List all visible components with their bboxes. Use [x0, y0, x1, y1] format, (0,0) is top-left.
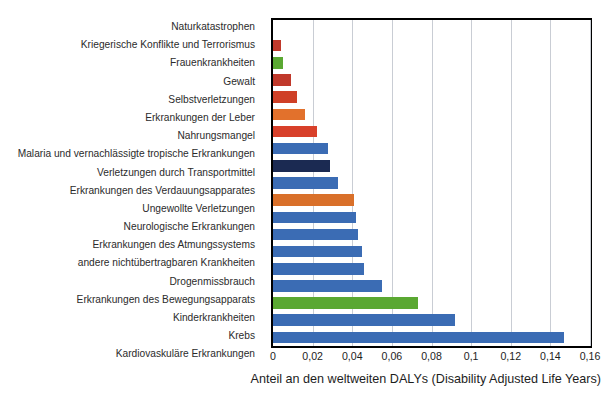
x-tick-label: 0,04	[342, 350, 363, 362]
x-tick-label: 0,12	[500, 350, 521, 362]
plot-area	[271, 18, 592, 348]
bar	[273, 57, 283, 69]
category-label: Kinderkrankheiten	[0, 309, 262, 327]
bar-row	[273, 37, 590, 54]
category-label: Erkrankungen des Bewegungsapparats	[0, 291, 262, 309]
category-label: Frauenkrankheiten	[0, 54, 262, 72]
bar-row	[273, 260, 590, 277]
category-label: Drogenmissbrauch	[0, 273, 262, 291]
category-label: Naturkatastrophen	[0, 18, 262, 36]
bar-row	[273, 277, 590, 294]
x-tick-label: 0,06	[382, 350, 403, 362]
bar	[273, 280, 382, 292]
bar	[273, 177, 338, 189]
bar-row	[273, 106, 590, 123]
bar	[273, 91, 297, 103]
bar-row	[273, 71, 590, 88]
chart-figure: NaturkatastrophenKriegerische Konflikte …	[0, 0, 609, 398]
bar-row	[273, 174, 590, 191]
category-label: Gewalt	[0, 73, 262, 91]
x-axis-title: Anteil an den weltweiten DALYs (Disabili…	[0, 372, 601, 386]
bar-row	[273, 295, 590, 312]
category-label: Kriegerische Konflikte und Terrorismus	[0, 36, 262, 54]
gridline	[590, 20, 591, 346]
category-label: Erkrankungen der Leber	[0, 109, 262, 127]
bar	[273, 314, 455, 326]
bar	[273, 143, 328, 155]
category-label: Verletzungen durch Transportmittel	[0, 164, 262, 182]
category-label: Kardiovaskuläre Erkrankungen	[0, 345, 262, 363]
bar-series	[273, 20, 590, 346]
x-tick-label: 0,02	[302, 350, 323, 362]
bar-row	[273, 209, 590, 226]
bar	[273, 194, 354, 206]
bar	[273, 160, 330, 172]
bar	[273, 109, 305, 121]
bar-row	[273, 312, 590, 329]
category-label: Neurologische Erkrankungen	[0, 218, 262, 236]
bar	[273, 229, 358, 241]
bar	[273, 40, 281, 52]
x-tick-label: 0,16	[580, 350, 601, 362]
category-label: Erkrankungen des Verdauungsapparates	[0, 182, 262, 200]
bar	[273, 246, 362, 258]
bar-row	[273, 226, 590, 243]
bar	[273, 74, 291, 86]
category-label: andere nichtübertragbaren Krankheiten	[0, 254, 262, 272]
bar-row	[273, 157, 590, 174]
bar	[273, 332, 564, 344]
bar	[273, 263, 364, 275]
x-tick-label: 0,1	[464, 350, 479, 362]
bar-row	[273, 329, 590, 346]
category-label: Erkrankungen des Atmungssystems	[0, 236, 262, 254]
category-axis-labels: NaturkatastrophenKriegerische Konflikte …	[0, 18, 262, 364]
bar-row	[273, 243, 590, 260]
category-label: Krebs	[0, 327, 262, 345]
category-label: Ungewollte Verletzungen	[0, 200, 262, 218]
bar	[273, 212, 356, 224]
category-label: Selbstverletzungen	[0, 91, 262, 109]
x-axis-ticks: 00,020,040,060,080,10,120,140,16	[271, 350, 592, 366]
bar-row	[273, 140, 590, 157]
bar-row	[273, 54, 590, 71]
bar-row	[273, 192, 590, 209]
bar	[273, 126, 317, 138]
category-label: Nahrungsmangel	[0, 127, 262, 145]
bar	[273, 297, 418, 309]
x-tick-label: 0	[270, 350, 276, 362]
x-tick-label: 0,14	[540, 350, 561, 362]
bar-row	[273, 89, 590, 106]
bar-row	[273, 123, 590, 140]
x-tick-label: 0,08	[421, 350, 442, 362]
category-label: Malaria und vernachlässigte tropische Er…	[0, 145, 262, 163]
bar-row	[273, 20, 590, 37]
